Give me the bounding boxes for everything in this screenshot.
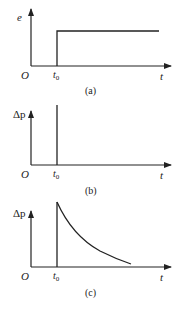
origin-label: O — [21, 69, 29, 81]
panel-c: Δp O t0 t (c) — [13, 202, 171, 299]
caption-a: (a) — [85, 85, 96, 97]
origin-label: O — [21, 168, 29, 180]
y-axis-label: Δp — [13, 108, 26, 120]
x-axis-label: t — [160, 70, 164, 82]
y-axis-label: Δp — [13, 207, 26, 219]
x-axis-label: t — [160, 271, 164, 283]
x-axis-label: t — [160, 169, 164, 181]
origin-label: O — [21, 270, 29, 282]
caption-c: (c) — [85, 287, 96, 299]
diagram-canvas: e O t0 t (a) Δp O t0 t (b) Δp O t0 t (c) — [0, 0, 187, 310]
decay-curve — [57, 202, 131, 264]
step-curve — [57, 31, 159, 66]
t0-label: t0 — [53, 270, 60, 283]
t0-label: t0 — [53, 69, 60, 82]
t0-label: t0 — [53, 168, 60, 181]
panel-a: e O t0 t (a) — [17, 9, 171, 97]
y-axis-label: e — [17, 11, 22, 23]
caption-b: (b) — [85, 185, 97, 197]
panel-b: Δp O t0 t (b) — [13, 105, 171, 197]
